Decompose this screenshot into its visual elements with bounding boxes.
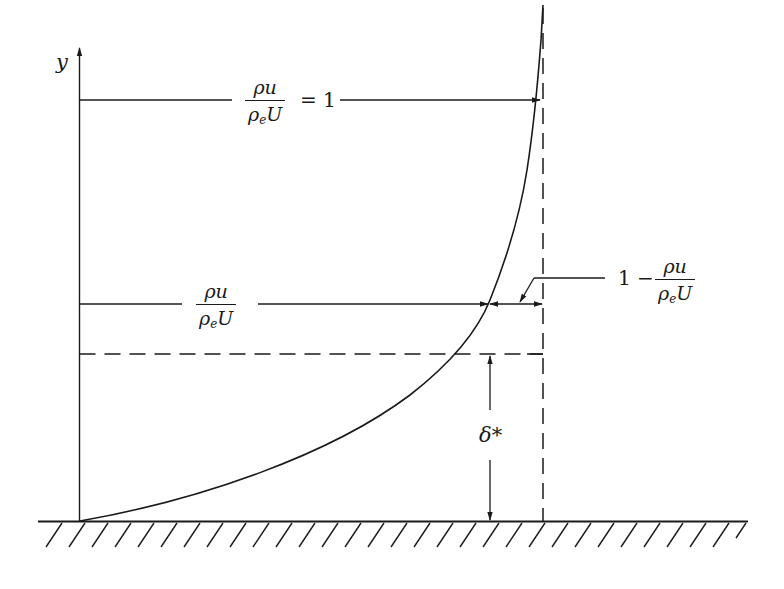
- mid-fraction-denominator: ρeU: [196, 305, 236, 330]
- deficit-fraction-numerator: ρu: [660, 257, 689, 279]
- deficit-fraction-denominator: ρeU: [655, 280, 695, 305]
- velocity-profile-curve: [80, 5, 543, 521]
- deficit-dimension: [490, 278, 605, 304]
- denominator-u: U: [676, 282, 692, 304]
- top-fraction-label: ρu ρeU: [245, 78, 285, 126]
- top-fraction-denominator: ρeU: [245, 101, 285, 126]
- delta-star-label: δ*: [479, 423, 502, 447]
- y-axis-label: y: [56, 50, 68, 74]
- mid-fraction-label: ρu ρeU: [196, 282, 236, 330]
- denominator-u: U: [266, 103, 282, 125]
- mid-fraction-numerator: ρu: [201, 282, 230, 304]
- wall-hatching: [46, 523, 746, 547]
- denominator-u: U: [217, 307, 233, 329]
- denominator-rho: ρ: [248, 103, 259, 125]
- denominator-rho: ρ: [199, 307, 210, 329]
- top-fraction-numerator: ρu: [250, 78, 279, 100]
- wall: [38, 522, 748, 548]
- deficit-prefix: 1 −: [618, 266, 654, 290]
- deficit-fraction-label: ρu ρeU: [655, 257, 695, 305]
- top-equals-one: = 1: [300, 88, 336, 112]
- denominator-rho: ρ: [658, 282, 669, 304]
